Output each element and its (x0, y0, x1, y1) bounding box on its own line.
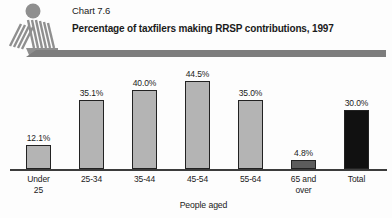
bar-value-label: 35.0% (239, 88, 263, 98)
bar-value-label: 44.5% (186, 69, 210, 79)
bar-slot: 35.0% (224, 88, 277, 169)
bars-row: 12.1%35.1%40.0%44.5%35.0%4.8%30.0% (12, 69, 383, 169)
bar (79, 100, 104, 170)
category-label: Total (330, 174, 383, 195)
category-labels-row: Under 2525-3435-4445-5455-6465 and overT… (12, 174, 383, 195)
bar-value-label: 12.1% (27, 133, 51, 143)
category-label: 55-64 (224, 174, 277, 195)
category-label: Under 25 (12, 174, 65, 195)
x-axis-line (10, 169, 387, 171)
x-axis-title: People aged (12, 200, 383, 210)
bar (132, 90, 157, 169)
bar-value-label: 35.1% (80, 88, 104, 98)
bar (238, 100, 263, 169)
category-label: 45-54 (171, 174, 224, 195)
bar-slot: 12.1% (12, 133, 65, 169)
bar-slot: 30.0% (330, 98, 383, 169)
bar-value-label: 4.8% (294, 148, 313, 158)
bar-slot: 4.8% (277, 148, 330, 170)
bar-slot: 35.1% (65, 88, 118, 170)
bar-value-label: 30.0% (345, 98, 369, 108)
bar-chart: 12.1%35.1%40.0%44.5%35.0%4.8%30.0% Under… (0, 0, 392, 218)
category-label: 65 and over (277, 174, 330, 195)
bar (185, 81, 210, 169)
category-label: 25-34 (65, 174, 118, 195)
chart-page: Chart 7.6 Percentage of taxfilers making… (0, 0, 392, 218)
bar (344, 110, 369, 169)
bar (26, 145, 51, 169)
bar (291, 160, 316, 170)
bar-value-label: 40.0% (133, 78, 157, 88)
bar-slot: 40.0% (118, 78, 171, 169)
bar-slot: 44.5% (171, 69, 224, 169)
category-label: 35-44 (118, 174, 171, 195)
